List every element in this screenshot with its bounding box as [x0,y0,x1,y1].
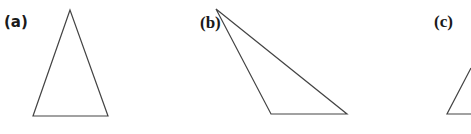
triangle-b [216,9,347,114]
triangle-c [447,68,471,114]
triangle-a [33,10,108,116]
triangles-canvas [0,0,471,134]
